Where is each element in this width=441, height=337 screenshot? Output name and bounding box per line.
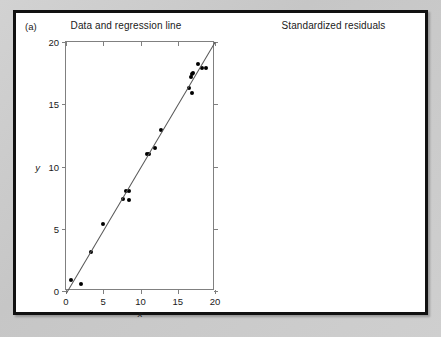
x-tick-top [66,42,67,46]
y-tick [62,167,66,168]
y-tick-right [214,167,218,168]
x-tick [141,290,142,294]
plot-area-left: 0510y152005101520 x [65,41,214,290]
x-tick [178,290,179,294]
x-tick-label: 5 [101,296,106,307]
y-tick-right [214,104,218,105]
x-tick-top [178,42,179,46]
y-tick-right [214,229,218,230]
y-tick-label: 10 [48,161,59,172]
chart-title-right: Standardized residuals [236,20,431,31]
chart-title-left: Data and regression line [16,20,236,31]
y-tick-label: 20 [48,37,59,48]
data-point [79,282,83,286]
x-tick [103,290,104,294]
y-axis-label: y [35,161,40,172]
x-tick-top [103,42,104,46]
data-point [127,198,131,202]
data-point [204,66,208,70]
y-tick-label: 15 [48,99,59,110]
x-tick [215,290,216,294]
figure-frame: (a) Data and regression line 0510y152005… [13,10,428,315]
regression-line-segment [66,42,216,294]
chart-panel-data-regression: Data and regression line 0510y1520051015… [16,13,236,312]
figure-root: (a) Data and regression line 0510y152005… [0,0,441,337]
y-tick-label: 0 [54,286,59,297]
x-tick-top [141,42,142,46]
x-tick-label: 0 [63,296,68,307]
data-point [190,91,194,95]
x-axis-label-left: x [138,308,143,319]
x-tick-label: 10 [135,296,146,307]
chart-panel-standardized-residuals: Standardized residuals −2.0−1.5−1.0−0.50… [236,13,431,312]
x-tick-label: 20 [210,296,221,307]
y-tick [62,229,66,230]
y-tick [62,104,66,105]
y-tick-label: 5 [54,223,59,234]
x-tick-label: 15 [172,296,183,307]
